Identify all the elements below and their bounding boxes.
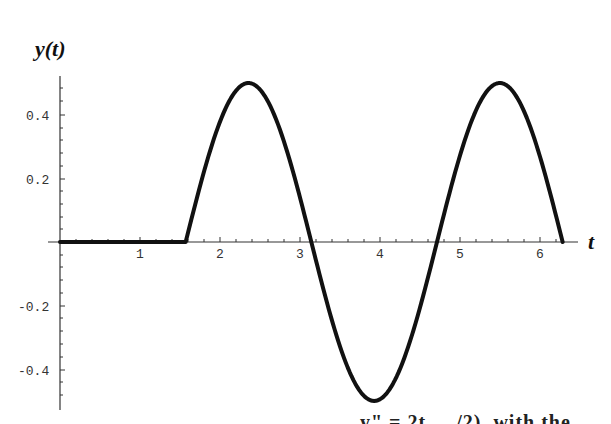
x-tick-label-6: 6: [536, 247, 544, 262]
y-tick-label-neg-0.2: -0.2: [18, 300, 49, 315]
y-axis-label: y(t): [32, 36, 66, 61]
x-tick-label-4: 4: [376, 247, 384, 262]
x-tick-label-2: 2: [216, 247, 224, 262]
y-tick-label-0.4: 0.4: [26, 109, 50, 124]
y-tick-label-0.2: 0.2: [26, 173, 49, 188]
x-tick-label-3: 3: [296, 247, 304, 262]
chart: y(t) t 1 2 3 4 5 6 0.4 0.2: [0, 0, 611, 424]
y-tick-label-neg-0.4: -0.4: [18, 364, 49, 379]
x-tick-label-5: 5: [456, 247, 464, 262]
x-tick-label-1: 1: [136, 247, 144, 262]
x-axis-label: t: [588, 229, 595, 254]
caption-fragment: ... .. y" = 2t ... /2), with the: [0, 414, 611, 424]
